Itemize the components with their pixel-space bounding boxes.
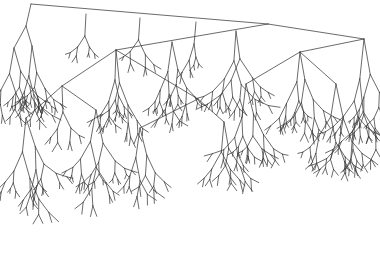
fractal-tree-canvas (0, 0, 380, 271)
figure-root (0, 0, 380, 271)
